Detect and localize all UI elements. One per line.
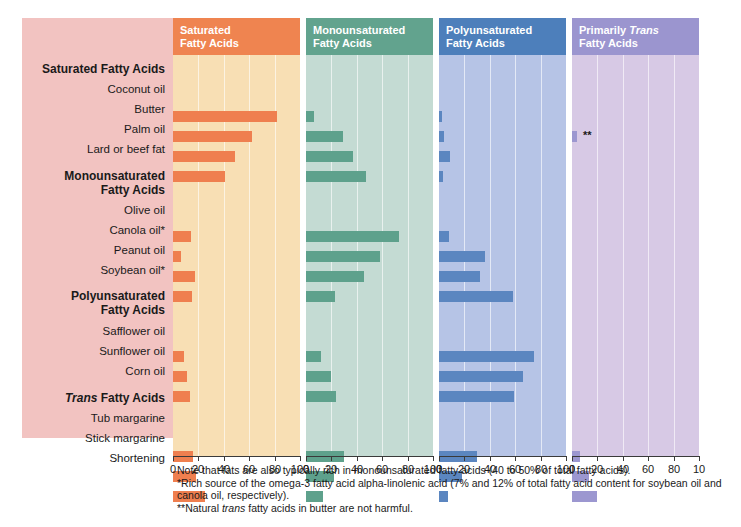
gridline-100 (433, 55, 434, 456)
x-tick-trans-80 (674, 456, 675, 461)
gridline-80 (674, 55, 675, 456)
bar-polyunsaturated-sunflower-oil (439, 371, 523, 382)
panel-header-polyunsaturated: Polyunsaturated Fatty Acids (439, 18, 566, 55)
gridline-60 (382, 55, 383, 456)
chart-panel-monounsaturated: Monounsaturated Fatty Acids020406080100 (306, 18, 433, 480)
x-axis-line-saturated (173, 456, 300, 457)
chart-panel-trans: Primarily Trans Fatty Acids**02040608010 (572, 18, 699, 480)
bar-saturated-sunflower-oil (173, 371, 187, 382)
gridline-80 (408, 55, 409, 456)
plot-area-trans: ** (572, 55, 699, 456)
row-label-safflower-oil: Safflower oil (20, 325, 165, 337)
x-tick-monounsaturated-80 (408, 456, 409, 461)
row-label-stick-margarine: Stick margarine (20, 432, 165, 444)
footnote-line-2: *Rich source of the omega-3 fatty acid a… (177, 477, 737, 502)
group-label-trans-rest: Fatty Acids (97, 391, 165, 405)
row-label-olive-oil: Olive oil (20, 204, 165, 216)
bar-polyunsaturated-peanut-oil (439, 271, 480, 282)
row-label-palm-oil: Palm oil (20, 123, 165, 135)
row-label-butter: Butter (20, 103, 165, 115)
group-label-trans-italic: Trans (65, 391, 97, 405)
row-label-lard-or-beef-fat: Lard or beef fat (20, 143, 165, 155)
row-label-coconut-oil: Coconut oil (20, 83, 165, 95)
x-tick-trans-60 (648, 456, 649, 461)
group-label-monounsaturated-line1: Monounsaturated (20, 170, 165, 182)
chart-panel-saturated: Saturated Fatty Acids020406080100 (173, 18, 300, 480)
bar-saturated-palm-oil (173, 151, 235, 162)
bar-polyunsaturated-soybean-oil (439, 291, 513, 302)
x-tick-monounsaturated-100 (433, 456, 434, 461)
row-label-tub-margarine: Tub margarine (20, 412, 165, 424)
x-tick-saturated-20 (198, 456, 199, 461)
row-label-canola-oil: Canola oil* (20, 224, 165, 236)
panel-header-text-post: Fatty Acids (579, 37, 638, 49)
footnotes-block: Note that fats are also typically rich i… (177, 464, 737, 514)
bar-polyunsaturated-canola-oil (439, 251, 485, 262)
footnote-line-3: **Natural trans fatty acids in butter ar… (177, 502, 737, 515)
bar-saturated-olive-oil (173, 231, 191, 242)
x-tick-monounsaturated-60 (382, 456, 383, 461)
x-tick-monounsaturated-0 (306, 456, 307, 461)
bar-saturated-soybean-oil (173, 291, 192, 302)
bar-polyunsaturated-olive-oil (439, 231, 449, 242)
row-label-peanut-oil: Peanut oil (20, 244, 165, 256)
bar-saturated-lard-or-beef-fat (173, 171, 225, 182)
x-tick-trans-20 (597, 456, 598, 461)
bar-saturated-peanut-oil (173, 271, 195, 282)
x-tick-trans-40 (623, 456, 624, 461)
bar-saturated-canola-oil (173, 251, 181, 262)
group-label-polyunsaturated-line2: Fatty Acids (20, 304, 165, 316)
bar-monounsaturated-coconut-oil (306, 111, 314, 122)
bar-monounsaturated-safflower-oil (306, 351, 321, 362)
x-tick-polyunsaturated-100 (566, 456, 567, 461)
x-tick-polyunsaturated-20 (464, 456, 465, 461)
panel-header-text: Polyunsaturated Fatty Acids (446, 24, 532, 49)
x-axis-line-trans (572, 456, 699, 457)
group-label-trans: Trans Fatty Acids (20, 392, 165, 404)
bar-trans-butter (572, 131, 577, 142)
footnote-3-post: fatty acids in butter are not harmful. (245, 502, 413, 514)
x-axis-line-polyunsaturated (439, 456, 566, 457)
footnote-3-pre: **Natural (177, 502, 222, 514)
bar-monounsaturated-peanut-oil (306, 271, 364, 282)
chart-panel-polyunsaturated: Polyunsaturated Fatty Acids020406080100 (439, 18, 566, 480)
gridline-60 (648, 55, 649, 456)
panel-header-monounsaturated: Monounsaturated Fatty Acids (306, 18, 433, 55)
bar-saturated-coconut-oil (173, 111, 277, 122)
group-label-monounsaturated-line2: Fatty Acids (20, 184, 165, 196)
x-tick-saturated-60 (249, 456, 250, 461)
row-label-sunflower-oil: Sunflower oil (20, 345, 165, 357)
bar-monounsaturated-lard-or-beef-fat (306, 171, 366, 182)
group-label-saturated: Saturated Fatty Acids (20, 63, 165, 75)
gridline-40 (623, 55, 624, 456)
x-tick-polyunsaturated-80 (541, 456, 542, 461)
bar-polyunsaturated-safflower-oil (439, 351, 534, 362)
footnote-line-1: Note that fats are also typically rich i… (177, 464, 737, 477)
bar-saturated-butter (173, 131, 252, 142)
panel-header-saturated: Saturated Fatty Acids (173, 18, 300, 55)
gridline-100 (566, 55, 567, 456)
panel-header-text: Saturated Fatty Acids (180, 24, 239, 49)
panel-header-trans: Primarily Trans Fatty Acids (572, 18, 699, 55)
row-label-corn-oil: Corn oil (20, 365, 165, 377)
gridline-20 (597, 55, 598, 456)
x-tick-saturated-0 (173, 456, 174, 461)
bar-monounsaturated-sunflower-oil (306, 371, 331, 382)
group-label-polyunsaturated-line1: Polyunsaturated (20, 290, 165, 302)
bar-monounsaturated-corn-oil (306, 391, 336, 402)
panel-header-text: Monounsaturated Fatty Acids (313, 24, 405, 49)
x-tick-monounsaturated-20 (331, 456, 332, 461)
bar-monounsaturated-palm-oil (306, 151, 353, 162)
x-tick-polyunsaturated-0 (439, 456, 440, 461)
x-tick-saturated-80 (275, 456, 276, 461)
x-axis-line-monounsaturated (306, 456, 433, 457)
x-tick-trans-0 (572, 456, 573, 461)
panel-header-text-pre: Primarily (579, 24, 629, 36)
bar-polyunsaturated-lard-or-beef-fat (439, 171, 443, 182)
gridline-80 (541, 55, 542, 456)
bar-saturated-corn-oil (173, 391, 190, 402)
plot-area-monounsaturated (306, 55, 433, 456)
bar-monounsaturated-canola-oil (306, 251, 380, 262)
plot-area-polyunsaturated (439, 55, 566, 456)
fatty-acid-composition-chart: Saturated Fatty Acids Coconut oil Butter… (0, 0, 741, 527)
